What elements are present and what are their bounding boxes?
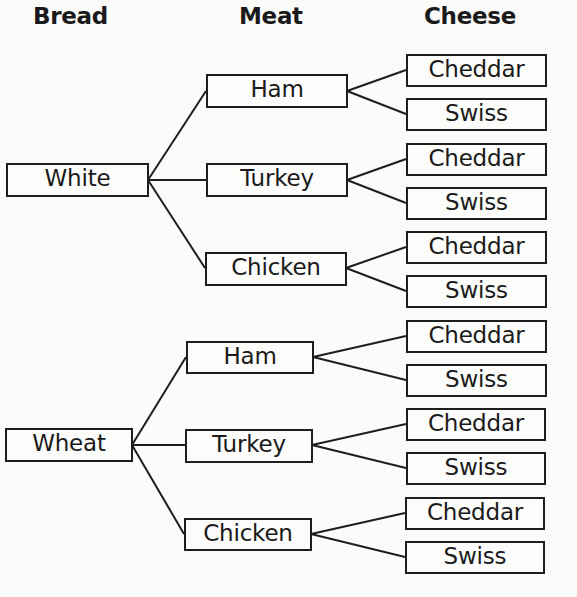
meat-node-white-chicken: Chicken bbox=[205, 252, 347, 286]
cheese-node-wheat-chicken-swiss: Swiss bbox=[405, 541, 545, 574]
meat-node-wheat-ham: Ham bbox=[186, 341, 314, 374]
meat-node-white-turkey: Turkey bbox=[206, 163, 348, 197]
cheese-node-white-ham-swiss: Swiss bbox=[406, 98, 547, 131]
cheese-node-white-chicken-cheddar: Cheddar bbox=[406, 231, 547, 264]
bread-node-white: White bbox=[6, 163, 149, 197]
cheese-node-wheat-ham-cheddar: Cheddar bbox=[406, 320, 547, 353]
cheese-node-wheat-ham-swiss: Swiss bbox=[406, 364, 547, 397]
meat-node-wheat-turkey: Turkey bbox=[185, 429, 313, 463]
cheese-node-wheat-turkey-cheddar: Cheddar bbox=[406, 408, 546, 441]
cheese-node-white-ham-cheddar: Cheddar bbox=[406, 54, 547, 87]
cheese-node-wheat-turkey-swiss: Swiss bbox=[406, 452, 546, 485]
bread-node-wheat: Wheat bbox=[5, 428, 133, 462]
meat-node-white-ham: Ham bbox=[206, 74, 348, 108]
cheese-node-wheat-chicken-cheddar: Cheddar bbox=[405, 497, 545, 530]
cheese-node-white-turkey-cheddar: Cheddar bbox=[406, 143, 547, 176]
cheese-node-white-chicken-swiss: Swiss bbox=[406, 275, 547, 308]
meat-node-wheat-chicken: Chicken bbox=[184, 518, 312, 551]
cheese-node-white-turkey-swiss: Swiss bbox=[406, 187, 547, 220]
